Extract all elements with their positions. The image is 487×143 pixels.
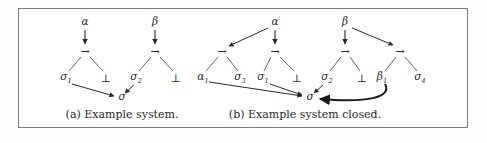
edge-arrow-node-b1-to-sigma3: [227, 57, 238, 71]
caption-b: (b) Example system closed.: [229, 109, 381, 120]
node-sigma1-a: σ1: [60, 71, 71, 85]
edge-arrow-node-b3-to-bot2: [350, 57, 360, 71]
edge-alpha-to-arrow-node-b1: [229, 28, 268, 46]
edge-arrow-node-b2-to-sigma1: [264, 57, 271, 71]
edge-arrow-node-a1-to-sigma1: [69, 57, 81, 71]
node-sigma2-b: σ2: [321, 71, 332, 85]
node-sigma1-b: σ1: [257, 71, 268, 85]
node-beta-a: β: [152, 16, 158, 30]
caption-a: (a) Example system.: [66, 109, 179, 120]
node-sigma-b: σ: [306, 91, 313, 105]
node-sigma4-b: σ4: [414, 71, 425, 85]
node-implication-b2: →: [270, 46, 279, 57]
node-bottom-a2: ⊥: [171, 73, 181, 84]
node-beta1-b: β1: [377, 71, 387, 85]
node-sigma2-a: σ2: [130, 71, 141, 85]
node-implication-b3: →: [340, 46, 349, 57]
edge-arrow-node-b4-to-sigma4: [405, 57, 417, 71]
panel-a-edges: [69, 30, 173, 96]
edge-arrow-node-a2-to-sigma2: [139, 57, 151, 71]
node-alpha-a: α: [81, 16, 88, 30]
edge-arrow-node-a2-to-bot2: [160, 57, 173, 71]
node-implication-a2: →: [150, 46, 159, 57]
edge-alpha1-to-sigma-b: [209, 82, 302, 96]
edge-arrow-node-b3-to-sigma2: [330, 57, 341, 71]
node-alpha1-b: α1: [197, 71, 208, 85]
node-implication-a1: →: [80, 46, 89, 57]
edge-arrow-node-b1-to-alpha1: [206, 57, 218, 71]
figure-page: α → σ1 ⊥ β → σ2 ⊥ σ α → → α1 σ3 σ1 ⊥: [0, 0, 487, 143]
edge-beta-to-arrow-node-b4: [352, 28, 393, 45]
node-bottom-b1: ⊥: [292, 73, 302, 84]
node-beta-b: β: [342, 16, 348, 30]
edge-arrow-node-b4-to-beta1: [385, 57, 396, 71]
edge-sigma2-to-sigma-a: [125, 85, 134, 93]
node-implication-b1: →: [217, 46, 226, 57]
node-alpha-b: α: [271, 16, 278, 30]
edge-beta1-to-sigma-b-curved: [320, 84, 386, 100]
edge-arrow-node-a1-to-bot1: [90, 57, 103, 71]
edge-arrow-node-b2-to-bot1: [280, 57, 294, 71]
edge-sigma1-to-sigma-a: [72, 84, 114, 96]
node-bottom-b2: ⊥: [357, 73, 367, 84]
node-sigma3-b: σ3: [234, 71, 245, 85]
edge-sigma2-to-sigma-b: [314, 85, 323, 93]
node-bottom-a1: ⊥: [101, 73, 111, 84]
node-implication-b4: →: [395, 46, 404, 57]
node-sigma-a: σ: [118, 91, 125, 105]
